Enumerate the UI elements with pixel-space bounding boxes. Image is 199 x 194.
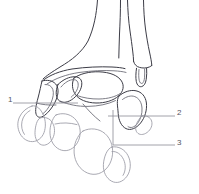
- fibula-distal-flare: [134, 62, 152, 68]
- midfoot-joint-line: [55, 123, 77, 125]
- navicular-outline: [36, 80, 58, 117]
- calcaneus-inner-line: [22, 111, 30, 135]
- anatomy-figure: 1 2 3: [0, 0, 199, 194]
- distal-metatarsal-inner-line: [112, 151, 125, 175]
- callout-label-3: 3: [177, 139, 181, 147]
- talus-dome-outline: [72, 72, 123, 103]
- fibula-anterior-border: [128, 0, 134, 62]
- talus-neck-line: [77, 94, 120, 99]
- navicular-inner-contour: [43, 84, 54, 113]
- callout-label-2: 2: [177, 109, 181, 117]
- tibia-lateral-border: [119, 0, 121, 58]
- fibula-posterior-border: [144, 0, 152, 66]
- cuboid-inner-contour: [123, 96, 143, 128]
- lateral-malleolus-inner-contour: [139, 69, 145, 83]
- callout-label-1: 1: [8, 96, 12, 104]
- skeleton-line-drawing: [0, 0, 199, 194]
- callout-leader-3: [113, 110, 175, 145]
